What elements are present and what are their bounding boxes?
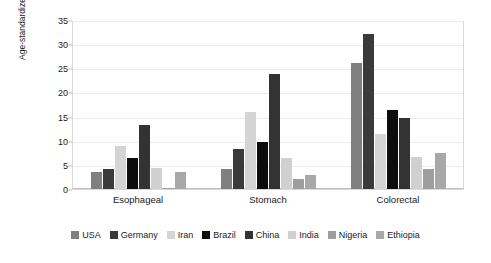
legend-swatch-icon	[71, 231, 79, 239]
bar[interactable]	[375, 134, 386, 189]
y-axis-tick-labels: 05101520253035	[40, 21, 68, 190]
bar[interactable]	[281, 158, 292, 189]
legend-item[interactable]: Iran	[167, 230, 194, 240]
y-tick-label: 25	[58, 64, 68, 74]
legend-swatch-icon	[376, 231, 384, 239]
bar[interactable]	[363, 34, 374, 189]
legend-label: India	[299, 230, 319, 240]
legend-item[interactable]: Germany	[110, 230, 158, 240]
bar[interactable]	[221, 169, 232, 189]
bar[interactable]	[91, 172, 102, 189]
legend-label: Brazil	[213, 230, 236, 240]
bar[interactable]	[269, 74, 280, 189]
legend-label: Germany	[121, 230, 158, 240]
bar[interactable]	[411, 157, 422, 189]
bar[interactable]	[423, 169, 434, 189]
y-tick-label: 35	[58, 16, 68, 26]
bar[interactable]	[233, 149, 244, 189]
bar[interactable]	[127, 158, 138, 189]
bar[interactable]	[257, 142, 268, 189]
legend-label: China	[256, 230, 280, 240]
bar[interactable]	[245, 112, 256, 189]
bar[interactable]	[305, 175, 316, 189]
legend-swatch-icon	[245, 231, 253, 239]
bar-group	[333, 22, 463, 189]
y-tick-mark	[68, 21, 72, 22]
legend-swatch-icon	[167, 231, 175, 239]
y-tick-mark	[68, 117, 72, 118]
bar[interactable]	[351, 63, 362, 189]
bar[interactable]	[151, 168, 162, 189]
legend-item[interactable]: China	[245, 230, 280, 240]
y-tick-mark	[68, 190, 72, 191]
x-axis-label: Stomach	[203, 194, 333, 205]
bar[interactable]	[175, 172, 186, 189]
bar[interactable]	[293, 179, 304, 189]
chart-legend: USAGermanyIranBrazilChinaIndiaNigeriaEth…	[0, 230, 491, 240]
y-tick-mark	[68, 93, 72, 94]
bar[interactable]	[387, 110, 398, 189]
legend-label: Iran	[178, 230, 194, 240]
legend-item[interactable]: Ethiopia	[376, 230, 420, 240]
bar-group	[203, 22, 333, 189]
bar[interactable]	[115, 146, 126, 189]
legend-label: Ethiopia	[387, 230, 420, 240]
bar-group	[73, 22, 203, 189]
x-axis-label: Colorectal	[333, 194, 463, 205]
bar-groups	[73, 22, 463, 189]
legend-item[interactable]: Brazil	[202, 230, 236, 240]
bar[interactable]	[163, 188, 174, 189]
bar[interactable]	[435, 153, 446, 189]
x-axis-label: Esophageal	[73, 194, 203, 205]
legend-label: Nigeria	[339, 230, 368, 240]
x-axis-labels: EsophagealStomachColorectal	[73, 194, 463, 205]
y-tick-mark	[68, 45, 72, 46]
y-tick-label: 20	[58, 88, 68, 98]
y-tick-mark	[68, 69, 72, 70]
legend-swatch-icon	[328, 231, 336, 239]
y-tick-mark	[68, 165, 72, 166]
legend-swatch-icon	[202, 231, 210, 239]
y-tick-label: 15	[58, 113, 68, 123]
bar[interactable]	[399, 118, 410, 189]
legend-item[interactable]: USA	[71, 230, 101, 240]
y-tick-mark	[68, 141, 72, 142]
y-tick-label: 10	[58, 137, 68, 147]
legend-label: USA	[82, 230, 101, 240]
bar[interactable]	[139, 125, 150, 189]
y-tick-label: 30	[58, 40, 68, 50]
bar-chart: Age-standardized incidence rates per 100…	[0, 0, 491, 263]
legend-swatch-icon	[288, 231, 296, 239]
legend-swatch-icon	[110, 231, 118, 239]
legend-item[interactable]: India	[288, 230, 319, 240]
bar[interactable]	[103, 169, 114, 189]
legend-item[interactable]: Nigeria	[328, 230, 368, 240]
